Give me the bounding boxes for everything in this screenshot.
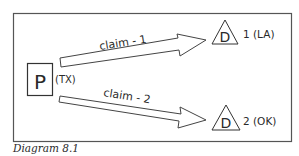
defendant-1-label: 1 (LA) <box>243 28 275 40</box>
defendant-1-node: D <box>212 20 238 45</box>
diagram-caption: Diagram 8.1 <box>13 142 79 154</box>
defendant-2-label: 2 (OK) <box>243 115 276 127</box>
defendant-1-letter: D <box>220 29 231 45</box>
plaintiff-location: (TX) <box>55 74 76 85</box>
defendant-2-letter: D <box>221 115 232 131</box>
plaintiff-node: P <box>28 64 53 96</box>
diagram-canvas: P (TX) claim - 1 claim - 2 D 1 (LA) D 2 … <box>0 0 299 156</box>
defendant-2-node: D <box>212 105 240 131</box>
plaintiff-letter: P <box>34 70 46 94</box>
